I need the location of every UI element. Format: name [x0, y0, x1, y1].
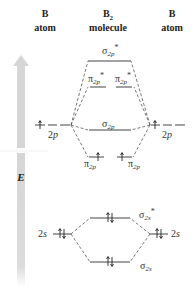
up-arrow-icon — [13, 55, 29, 148]
mo-label: σ2s — [140, 260, 152, 273]
right-2s-label: 2s — [171, 228, 180, 239]
header-molecule-subscript: 2 — [110, 14, 114, 22]
mo-pi2p-star-b: π2p* — [115, 71, 132, 87]
mo-label: π2p — [128, 158, 141, 171]
corr-left-2p-pi2p-star — [71, 87, 88, 125]
left-2s-level: 2s — [38, 228, 71, 239]
mo-pi2p-star-a: π2p* — [88, 71, 106, 87]
header-molecule-line2: molecule — [89, 22, 127, 33]
mo-sigma2p: σ2p — [89, 118, 131, 131]
mo-sigma2s-star: σ2s* — [90, 207, 155, 223]
mo-label: π2p — [84, 158, 97, 171]
corr-right-2p-sigma2p — [131, 125, 150, 130]
mo-pi2p-b: π2p — [117, 153, 141, 172]
header-right-atom: B atom — [161, 8, 183, 33]
right-2p-label: 2p — [162, 129, 172, 140]
header-right-atom-line2: atom — [161, 22, 183, 33]
header-right-atom-line1: B — [169, 8, 176, 19]
corr-left-2s-sigma2s-star — [71, 218, 90, 234]
header-left-atom: B atom — [34, 8, 56, 33]
energy-axis: E — [0, 55, 48, 287]
right-2p-level: 2p — [151, 121, 185, 141]
mo-sigma2s: σ2s — [90, 257, 152, 274]
right-2s-level: 2s — [150, 228, 180, 239]
header-molecule-line1: B2 — [103, 8, 114, 22]
mo-label: π2p* — [88, 71, 104, 86]
mo-label: σ2s* — [139, 207, 155, 222]
corr-left-2p-sigma2p — [71, 125, 88, 130]
correlation-lines — [71, 61, 150, 262]
corr-right-2p-pi2p — [133, 125, 150, 157]
mo-label: σ2p — [102, 118, 115, 131]
mo-sigma2p-star: σ2p* — [88, 43, 131, 61]
energy-label: E — [16, 171, 24, 183]
mo-pi2p-a: π2p — [84, 153, 104, 172]
mo-label: π2p* — [115, 71, 131, 86]
corr-left-2p-pi2p — [71, 125, 88, 157]
corr-right-2p-pi2p-star — [134, 87, 150, 125]
left-2p-level: 2p — [35, 121, 70, 141]
header-left-atom-line2: atom — [34, 22, 56, 33]
mo-diagram: B atom B2 molecule B atom E — [0, 0, 195, 287]
header-left-atom-line1: B — [42, 8, 49, 19]
corr-left-2s-sigma2s — [71, 234, 90, 262]
mo-label: σ2p* — [102, 43, 118, 58]
left-2s-label: 2s — [38, 228, 47, 239]
left-2p-label: 2p — [48, 129, 58, 140]
header-molecule: B2 molecule — [89, 8, 127, 33]
corr-right-2s-sigma2s — [130, 234, 150, 262]
corr-right-2p-sigma2p-star — [131, 61, 150, 125]
